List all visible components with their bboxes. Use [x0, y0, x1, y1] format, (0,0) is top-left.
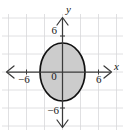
x-tick-label-negative-six: −6: [18, 73, 30, 85]
x-axis-label: x: [113, 60, 119, 72]
y-axis-label: y: [65, 3, 71, 15]
origin-label: 0: [51, 70, 57, 82]
coordinate-plane-figure: x y −6 6 6 −6 0: [0, 0, 125, 134]
x-tick-label-positive-six: 6: [96, 73, 102, 85]
y-tick-label-negative-six: −6: [47, 104, 59, 116]
graph-canvas: x y −6 6 6 −6 0: [0, 0, 125, 134]
y-tick-label-positive-six: 6: [52, 24, 58, 36]
